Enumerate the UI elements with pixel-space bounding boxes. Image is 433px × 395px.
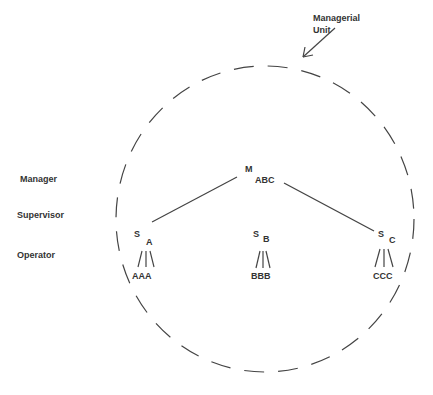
supervisor-node-c: S C CCC [373,229,396,281]
svg-text:S: S [378,229,384,239]
operators-b: BBB [251,271,271,281]
manager-node: M ABC [245,164,275,185]
annotation-label-line2: Unit [313,25,331,35]
svg-text:B: B [263,234,270,244]
svg-text:S: S [134,229,140,239]
connector-manager-to-supervisor-a [152,177,237,222]
svg-text:C: C [389,235,396,245]
level-label-supervisor: Supervisor [17,210,65,220]
svg-text:A: A [146,237,153,247]
annotation-label-line1: Managerial [313,13,360,23]
svg-text:ABC: ABC [255,175,275,185]
managerial-unit-diagram: Managerial Unit Manager Supervisor Opera… [0,0,433,395]
level-label-operator: Operator [17,250,56,260]
level-label-manager: Manager [20,174,58,184]
connector-manager-to-supervisor-c [284,183,374,231]
supervisor-node-b: S B BBB [251,229,271,281]
operators-c: CCC [373,271,393,281]
managerial-unit-boundary [116,66,414,372]
svg-text:M: M [245,164,253,174]
svg-text:S: S [253,229,259,239]
operators-a: AAA [132,271,152,281]
supervisor-node-a: S A AAA [132,229,154,281]
